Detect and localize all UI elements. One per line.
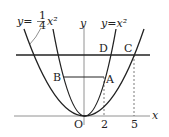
curve-label-quarter-rhs: x² <box>47 15 58 28</box>
point-C-label: C <box>124 42 132 55</box>
curve-label-quarter-den: 4 <box>39 19 46 32</box>
diagram: y= 1 4 x² y y=x² D C B A O 2 5 x <box>0 0 169 137</box>
tick-label-5: 5 <box>131 118 138 131</box>
curve-label-quarter-lhs: y= <box>16 15 32 28</box>
point-B-label: B <box>53 71 61 84</box>
point-D-label: D <box>99 42 108 55</box>
x-axis-label: x <box>152 109 159 122</box>
origin-label: O <box>74 118 83 131</box>
curve-label-unit: y=x² <box>100 17 127 30</box>
parabola-diagram: y= 1 4 x² y y=x² D C B A O 2 5 x <box>0 0 169 137</box>
point-A-label: A <box>105 73 115 86</box>
tick-label-2: 2 <box>101 118 108 131</box>
y-axis-label: y <box>79 17 87 30</box>
